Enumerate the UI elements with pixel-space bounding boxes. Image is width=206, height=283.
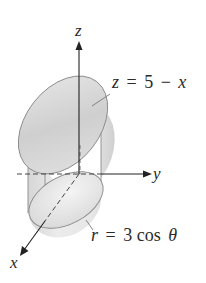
cylinder-plane-diagram: z y x z = 5 − x r = 3 cos θ: [0, 0, 206, 283]
cylinder-lhs: r: [91, 225, 99, 245]
y-axis-label: y: [151, 164, 161, 183]
plane-var: x: [177, 72, 186, 92]
x-axis-arrowhead: [20, 246, 29, 256]
z-axis-label: z: [74, 21, 82, 40]
x-axis-label: x: [9, 253, 18, 272]
plane-lhs: z: [111, 72, 119, 92]
plane-equation-label: z = 5 − x: [111, 72, 186, 92]
z-axis-arrowhead: [76, 41, 83, 50]
cylinder-equation-label: r = 3 cos θ: [91, 225, 177, 245]
y-axis-arrowhead: [143, 171, 152, 178]
equals-sign: =: [127, 72, 137, 92]
equals-sign: =: [106, 225, 116, 245]
minus-sign: −: [161, 72, 171, 92]
plane-constant: 5: [144, 72, 153, 92]
cylinder-rhs: 3 cos: [123, 225, 161, 245]
theta-symbol: θ: [168, 225, 177, 245]
